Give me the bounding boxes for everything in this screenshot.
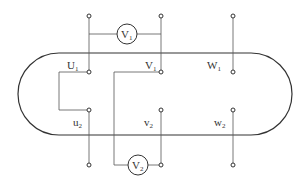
jumper-U1-u2 [59,72,87,110]
label-u2: u2 [73,116,83,130]
terminal-bottom-u[interactable] [87,163,91,167]
terminal-U1[interactable] [87,70,91,74]
terminal-bottom-v[interactable] [159,163,163,167]
terminal-w2[interactable] [231,108,235,112]
terminal-W1[interactable] [231,70,235,74]
terminal-V1[interactable] [159,70,163,74]
label-V1: V1 [145,59,157,73]
terminal-bottom-w[interactable] [231,163,235,167]
terminal-v2[interactable] [159,108,163,112]
terminal-top-V[interactable] [159,14,163,18]
v2-wire-left [114,72,159,165]
label-w2: w2 [214,116,226,130]
label-U1: U1 [67,59,79,73]
terminal-top-U[interactable] [87,14,91,18]
terminal-u2[interactable] [87,108,91,112]
terminal-top-W[interactable] [231,14,235,18]
label-v2: v2 [144,116,154,130]
winding-diagram: V1 V2 U1 V1 W1 u2 v2 w2 [0,0,305,190]
label-W1: W1 [207,59,221,73]
